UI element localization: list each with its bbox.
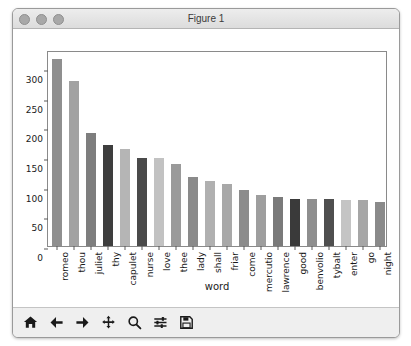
x-axis-tick-label: thy — [111, 252, 121, 267]
x-axis-tick-label: go — [366, 252, 376, 263]
bar — [52, 59, 62, 246]
bar — [273, 197, 283, 246]
window-titlebar[interactable]: Figure 1 — [13, 9, 399, 29]
bar — [86, 133, 96, 246]
x-axis-tick-label: thou — [77, 252, 87, 272]
x-axis-tick-mark — [90, 246, 91, 250]
bar — [341, 200, 351, 246]
y-axis-tick-mark — [44, 249, 48, 250]
bar — [103, 145, 113, 246]
home-icon[interactable] — [22, 314, 39, 331]
bar — [307, 199, 317, 246]
x-axis-tick-mark — [379, 246, 380, 250]
chart-axes: 050100150200250300romeothoujulietthycapu… — [47, 51, 387, 247]
forward-arrow-icon[interactable] — [74, 314, 91, 331]
x-axis-tick-mark — [124, 246, 125, 250]
x-axis-tick-label: enter — [349, 252, 359, 276]
x-axis-tick-label: lady — [196, 252, 206, 271]
x-axis-tick-label: nurse — [145, 252, 155, 277]
x-axis-tick-mark — [243, 246, 244, 250]
bar — [290, 199, 300, 247]
pan-move-icon[interactable] — [100, 314, 117, 331]
y-axis-tick-label: 150 — [26, 164, 48, 174]
bar — [154, 158, 164, 246]
y-axis-tick-label: 200 — [26, 134, 48, 144]
x-axis-tick-label: good — [298, 252, 308, 274]
x-axis-tick-label: shall — [213, 252, 223, 273]
x-axis-tick-label: friar — [230, 252, 240, 271]
y-axis-tick-label: 50 — [32, 223, 48, 233]
bar — [171, 164, 181, 246]
x-axis-tick-mark — [107, 246, 108, 250]
window-title: Figure 1 — [13, 9, 399, 28]
x-axis-tick-mark — [73, 246, 74, 250]
bar — [358, 200, 368, 246]
bar — [188, 177, 198, 246]
x-axis-tick-mark — [345, 246, 346, 250]
bar-plot-area: 050100150200250300romeothoujulietthycapu… — [48, 52, 386, 246]
x-axis-tick-label: love — [162, 252, 172, 271]
x-axis-tick-label: thee — [179, 252, 189, 272]
x-axis-tick-mark — [362, 246, 363, 250]
magnifier-zoom-icon[interactable] — [126, 314, 143, 331]
y-axis-tick-mark — [44, 70, 48, 71]
y-axis-tick-mark — [44, 130, 48, 131]
x-axis-tick-mark — [311, 246, 312, 250]
y-axis-tick-mark — [44, 100, 48, 101]
x-axis-tick-label: romeo — [60, 252, 70, 281]
x-axis-tick-mark — [192, 246, 193, 250]
bar — [324, 199, 334, 246]
y-axis-tick-mark — [44, 159, 48, 160]
x-axis-tick-label: juliet — [94, 252, 104, 274]
y-axis-tick-label: 250 — [26, 105, 48, 115]
bar — [222, 184, 232, 246]
x-axis-tick-label: night — [383, 252, 393, 275]
bar — [69, 81, 79, 246]
x-axis-tick-mark — [226, 246, 227, 250]
back-arrow-icon[interactable] — [48, 314, 65, 331]
y-axis-tick-label: 300 — [26, 75, 48, 85]
x-axis-tick-mark — [277, 246, 278, 250]
bar — [137, 158, 147, 246]
floppy-save-icon[interactable] — [178, 314, 195, 331]
sliders-configure-icon[interactable] — [152, 314, 169, 331]
bar — [239, 190, 249, 246]
y-axis-tick-label: 100 — [26, 194, 48, 204]
x-axis-tick-mark — [158, 246, 159, 250]
y-axis-tick-label: 0 — [37, 253, 48, 263]
x-axis-tick-mark — [294, 246, 295, 250]
bar — [256, 195, 266, 246]
figure-canvas[interactable]: 050100150200250300romeothoujulietthycapu… — [13, 29, 399, 307]
x-axis-tick-mark — [141, 246, 142, 250]
x-axis-tick-mark — [209, 246, 210, 250]
x-axis-tick-label: come — [247, 252, 257, 277]
x-axis-tick-mark — [260, 246, 261, 250]
bar — [205, 181, 215, 246]
navigation-toolbar[interactable] — [13, 307, 399, 337]
x-axis-tick-mark — [175, 246, 176, 250]
x-axis-tick-label: tybalt — [332, 252, 342, 278]
x-axis-tick-mark — [328, 246, 329, 250]
y-axis-tick-mark — [44, 219, 48, 220]
x-axis-tick-mark — [56, 246, 57, 250]
y-axis-tick-mark — [44, 189, 48, 190]
x-axis-title: word — [47, 281, 387, 292]
bar — [120, 149, 130, 246]
figure-window: Figure 1 050100150200250300romeothoujuli… — [12, 8, 400, 338]
bar — [375, 202, 385, 246]
